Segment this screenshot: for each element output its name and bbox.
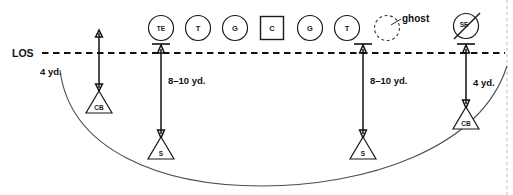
ghost-label: ghost [402, 13, 430, 24]
offense-player-ghost[interactable] [375, 16, 400, 41]
player-position-label: S [159, 150, 164, 157]
los-label: LOS [12, 47, 34, 59]
offense-player-te[interactable]: TE [149, 16, 174, 41]
football-play-diagram: LOS 4 yd. 8–10 yd. 8–10 yd. [0, 0, 513, 195]
player-position-label: CB [94, 104, 104, 111]
offense-player-left-tackle[interactable]: T [186, 16, 211, 41]
defense-player-cb-right[interactable]: CB [453, 107, 479, 129]
defense-player-safety-right[interactable]: S [350, 137, 376, 159]
defense-group: CB S S CB [86, 91, 479, 159]
measurement-label: 8–10 yd. [370, 75, 408, 86]
player-position-label: G [232, 24, 238, 33]
player-position-label: CB [461, 120, 471, 127]
player-position-label: G [307, 24, 313, 33]
measurement-s-left-depth: 8–10 yd. [152, 44, 206, 138]
offense-player-split-end[interactable]: SE [454, 13, 481, 39]
player-position-label: T [196, 24, 201, 33]
measurement-label: 8–10 yd. [168, 75, 206, 86]
offense-player-right-tackle[interactable]: T [335, 16, 360, 41]
measurement-cb-left-depth: 4 yd. [40, 30, 102, 91]
offense-player-right-guard[interactable]: G [298, 16, 323, 41]
offense-player-left-guard[interactable]: G [223, 16, 248, 41]
player-position-label: C [269, 24, 275, 33]
player-position-label: T [345, 24, 350, 33]
measurement-label: 4 yd. [473, 77, 495, 88]
player-position-label: SE [460, 21, 469, 28]
offense-player-center[interactable]: C [261, 17, 284, 40]
player-position-label: S [361, 150, 366, 157]
player-position-label: TE [157, 25, 166, 32]
coverage-arc [60, 66, 507, 186]
measurement-label: 4 yd. [40, 66, 62, 77]
offense-group: TE T G C G T [149, 13, 481, 41]
diagram-canvas: LOS 4 yd. 8–10 yd. 8–10 yd. [0, 0, 513, 195]
ghost-player-circle [375, 16, 400, 41]
measurement-s-right-depth: 8–10 yd. [354, 44, 408, 138]
defense-player-cb-left[interactable]: CB [86, 91, 112, 113]
defense-player-safety-left[interactable]: S [148, 137, 174, 159]
